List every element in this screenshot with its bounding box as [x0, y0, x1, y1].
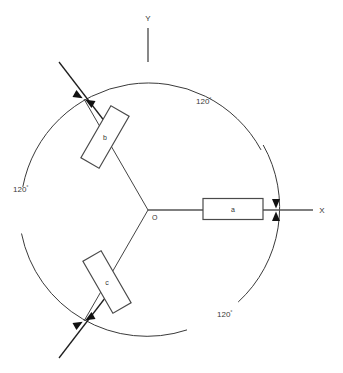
origin-label: O [152, 214, 158, 221]
crossing-marker-c-lower-triangle [72, 318, 84, 330]
y-axis-label: Y [145, 14, 151, 23]
circle-arc-right [238, 145, 279, 302]
crossing-marker-b-upper-triangle [72, 90, 84, 102]
component-box-b[interactable]: b [81, 106, 129, 168]
svg-text:120°: 120° [13, 184, 29, 194]
phasor-diagram: a b c Y X O [0, 0, 343, 373]
angle-label-bottom-right-unit: ° [230, 309, 232, 315]
x-axis-label: X [319, 206, 325, 215]
angle-label-top-right-unit: ° [209, 96, 211, 102]
component-box-a[interactable]: a [203, 199, 263, 220]
circle-arc-top [23, 83, 261, 187]
crossing-marker-a-upper-triangle [272, 199, 280, 209]
tangent-line-c [59, 289, 112, 358]
component-box-c-label: c [105, 279, 109, 286]
svg-text:120°: 120° [196, 96, 212, 106]
angle-label-left-unit: ° [26, 184, 28, 190]
svg-text:120°: 120° [217, 309, 233, 319]
component-box-b-label: b [103, 134, 107, 141]
angle-label-top-right-value: 120 [196, 97, 210, 106]
angle-label-left: 120° [13, 184, 29, 194]
crossing-marker-a-lower-triangle [272, 212, 280, 222]
angle-label-left-value: 120 [13, 185, 27, 194]
diagram-canvas: a b c Y X O [0, 0, 343, 373]
angle-label-bottom-right: 120° [217, 309, 233, 319]
component-box-c[interactable]: c [83, 251, 131, 313]
angle-label-top-right: 120° [196, 96, 212, 106]
angle-label-bottom-right-value: 120 [217, 310, 231, 319]
component-box-a-label: a [231, 206, 235, 213]
